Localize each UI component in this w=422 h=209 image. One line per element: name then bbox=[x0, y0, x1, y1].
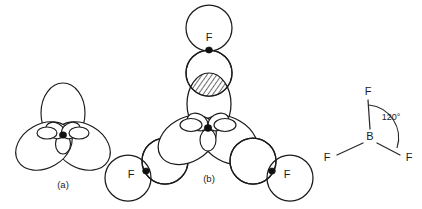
bond-b-f-right bbox=[377, 143, 400, 155]
structure-fluorine-top-label: F bbox=[365, 85, 372, 97]
fluorine-top-circle bbox=[186, 5, 232, 51]
sp2-backlobe-right bbox=[69, 127, 89, 139]
panel-b-group: F F bbox=[105, 5, 313, 201]
fluorine-lower-left-nucleus bbox=[143, 168, 150, 174]
panel-b-label: (b) bbox=[203, 173, 215, 184]
panel-a-label: (a) bbox=[57, 179, 69, 190]
fluorine-top-label: F bbox=[206, 31, 213, 43]
figure-canvas: (a) F bbox=[0, 0, 422, 209]
panel-a-group: (a) bbox=[7, 83, 119, 190]
fluorine-lower-left-label: F bbox=[128, 168, 135, 180]
fluorine-lower-right-nucleus bbox=[269, 168, 276, 174]
chemistry-figure: (a) F bbox=[0, 0, 422, 209]
boron-backlobe-down bbox=[200, 129, 216, 151]
bond-b-f-left bbox=[337, 143, 363, 155]
bf3-structural-formula: F B F F 120° bbox=[324, 85, 413, 163]
boron-backlobe-left bbox=[180, 119, 202, 132]
boron-nucleus-a bbox=[59, 132, 66, 138]
structure-fluorine-right-label: F bbox=[406, 151, 413, 163]
structure-fluorine-left-label: F bbox=[324, 151, 331, 163]
structure-boron-label: B bbox=[366, 130, 373, 142]
boron-nucleus-b bbox=[204, 125, 212, 132]
fluorine-lower-right-label: F bbox=[284, 168, 291, 180]
boron-backlobe-right bbox=[214, 119, 236, 132]
bond-angle-label: 120° bbox=[382, 112, 401, 122]
bond-b-f-top bbox=[368, 100, 370, 129]
sp2-backlobe-left bbox=[37, 127, 57, 139]
fluorine-top-nucleus bbox=[206, 47, 213, 53]
